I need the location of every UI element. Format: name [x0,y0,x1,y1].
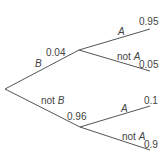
branch-notB-A [80,106,150,127]
label-not-prefix: not [41,95,58,106]
label-event-B-A: A [117,26,125,37]
label-event-B-not-A: not A [117,51,141,62]
label-not-prefix: not [117,51,134,62]
branch-B [5,50,79,89]
branch-B-A [79,29,150,50]
label-prob-B-not-A: 0.05 [139,59,159,70]
label-letter-B: B [58,95,65,106]
label-event-notB-A: A [120,103,128,114]
label-event-notB-not-A: not A [122,131,146,142]
label-not-prefix: not [122,131,139,142]
label-prob-notB-not-A: 0.9 [144,139,158,150]
probability-tree-diagram: B 0.04 not B 0.96 A 0.95 not A 0.05 A 0.… [0,0,164,158]
label-prob-B: 0.04 [46,47,66,58]
label-prob-not-B: 0.96 [67,111,87,122]
label-prob-B-A: 0.95 [139,16,159,27]
label-prob-notB-A: 0.1 [144,95,158,106]
label-event-B: B [35,58,42,69]
label-event-not-B: not B [41,95,65,106]
